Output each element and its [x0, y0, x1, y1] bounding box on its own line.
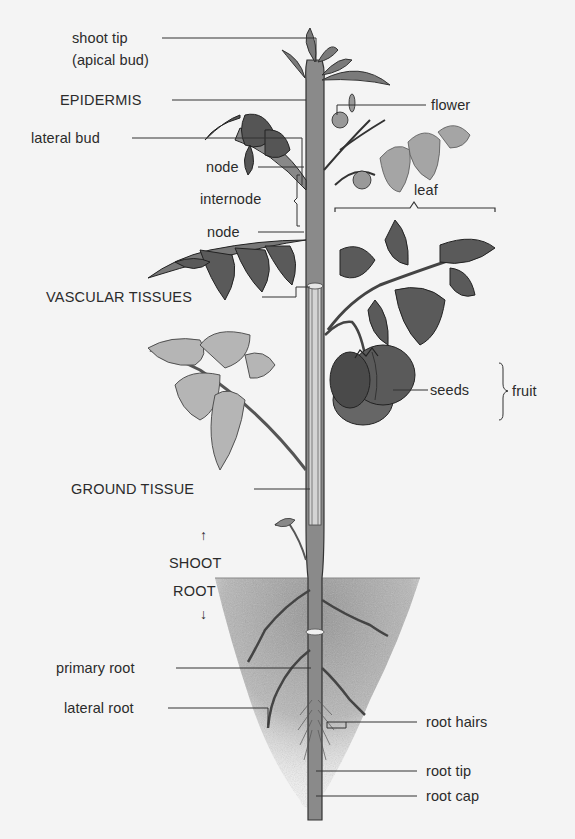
- label-root-hairs: root hairs: [426, 714, 487, 730]
- label-fruit: fruit: [512, 383, 537, 399]
- label-primary-root: primary root: [56, 660, 135, 676]
- lower-left-leaf: [148, 332, 306, 470]
- arrow-down-icon: ↓: [200, 606, 207, 622]
- upper-leaves: [205, 114, 306, 190]
- label-epidermis: EPIDERMIS: [60, 92, 142, 108]
- label-root: ROOT: [173, 583, 216, 599]
- arrow-up-icon: ↑: [200, 527, 207, 543]
- plant-diagram: shoot tip (apical bud) EPIDERMIS lateral…: [0, 0, 575, 839]
- label-internode: internode: [200, 191, 261, 207]
- label-shoot-tip: shoot tip: [72, 30, 128, 46]
- small-shoot: [275, 523, 306, 561]
- apical-bud: [282, 28, 390, 85]
- label-root-tip: root tip: [426, 763, 471, 779]
- label-lateral-root: lateral root: [64, 700, 134, 716]
- label-lateral-bud: lateral bud: [31, 130, 100, 146]
- label-seeds: seeds: [430, 382, 469, 398]
- label-node-upper: node: [206, 159, 239, 175]
- label-ground-tissue: GROUND TISSUE: [71, 481, 194, 497]
- mid-right-leaves: [328, 220, 495, 345]
- leaf-bracket: [335, 202, 495, 212]
- label-node-lower: node: [207, 224, 240, 240]
- label-root-cap: root cap: [426, 788, 479, 804]
- label-vascular-tissues: VASCULAR TISSUES: [46, 289, 192, 305]
- label-leaf: leaf: [414, 182, 438, 198]
- tomato-fruit: [330, 345, 415, 425]
- label-flower: flower: [431, 97, 470, 113]
- label-shoot: SHOOT: [169, 555, 222, 571]
- label-apical-bud: (apical bud): [72, 52, 149, 68]
- stem: [306, 60, 325, 820]
